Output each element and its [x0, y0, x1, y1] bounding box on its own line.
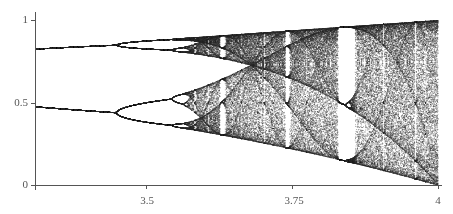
x-tick-label-3.75: 3.75 — [274, 194, 314, 206]
x-tick-label-4: 4 — [418, 194, 453, 206]
x-tick-label-3.5: 3.5 — [127, 194, 167, 206]
y-tick-label-0: 0 — [4, 178, 28, 190]
y-tick-label-1: 1 — [4, 13, 28, 25]
bifurcation-plot — [0, 0, 453, 214]
y-tick-label-0.5: 0.5 — [4, 96, 28, 108]
